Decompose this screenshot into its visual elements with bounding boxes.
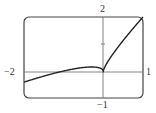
x-min-label: −2 — [4, 67, 15, 77]
y-min-label: −1 — [97, 100, 108, 110]
x-max-label: 1 — [146, 67, 151, 77]
chart-plot — [0, 0, 156, 113]
y-max-label: 2 — [100, 4, 105, 14]
plot-frame — [24, 17, 143, 98]
